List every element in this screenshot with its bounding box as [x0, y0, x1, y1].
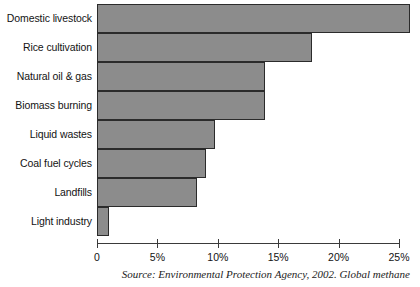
bar-row [97, 4, 410, 33]
x-axis-tick [399, 239, 400, 248]
category-label-liquid-wastes: Liquid wastes [0, 120, 92, 149]
x-axis-tick [218, 239, 219, 248]
x-axis-tick-label: 20% [328, 251, 349, 263]
x-axis-tick-label: 0 [94, 251, 100, 263]
bar-row [97, 62, 410, 91]
category-label-coal-fuel-cycles: Coal fuel cycles [0, 149, 92, 178]
bar-landfills [97, 178, 197, 207]
bar-biomass-burning [97, 91, 265, 120]
category-label-rice-cultivation: Rice cultivation [0, 33, 92, 62]
bar-natural-oil-gas [97, 62, 265, 91]
bar-row [97, 91, 410, 120]
category-label-domestic-livestock: Domestic livestock [0, 4, 92, 33]
x-axis-tick-label: 25% [388, 251, 409, 263]
bar-coal-fuel-cycles [97, 149, 206, 178]
bar-light-industry [97, 207, 109, 236]
category-label-biomass-burning: Biomass burning [0, 91, 92, 120]
bar-liquid-wastes [97, 120, 215, 149]
source-caption: Source: Environmental Protection Agency,… [0, 268, 415, 280]
category-label-light-industry: Light industry [0, 207, 92, 236]
category-axis-labels: Domestic livestock Rice cultivation Natu… [0, 4, 92, 236]
x-axis-tick [339, 239, 340, 248]
bar-row [97, 33, 410, 62]
bar-row [97, 149, 410, 178]
bar-rice-cultivation [97, 33, 312, 62]
methane-sources-bar-chart: Domestic livestock Rice cultivation Natu… [0, 0, 420, 287]
category-label-landfills: Landfills [0, 178, 92, 207]
bar-row [97, 178, 410, 207]
x-axis-tick [157, 239, 158, 248]
x-axis-tick-label: 5% [150, 251, 165, 263]
x-axis-tick [97, 239, 98, 248]
bar-row [97, 207, 410, 236]
category-label-natural-oil-gas: Natural oil & gas [0, 62, 92, 91]
bar-domestic-livestock [97, 4, 410, 33]
x-axis-line [97, 243, 399, 244]
x-axis-tick-label: 10% [207, 251, 228, 263]
x-axis: 05%10%15%20%25% [97, 243, 410, 244]
bar-row [97, 120, 410, 149]
x-axis-tick-label: 15% [268, 251, 289, 263]
plot-area [97, 4, 410, 236]
x-axis-tick [278, 239, 279, 248]
